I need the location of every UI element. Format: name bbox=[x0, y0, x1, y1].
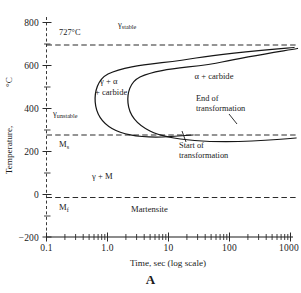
eutectoid-temperature-label: 727°C bbox=[59, 28, 81, 37]
ttt-diagram-figure: 800 600 400 200 0 −200 Temperature, °C bbox=[0, 0, 301, 293]
x-tick-label-1-0: 1.0 bbox=[101, 243, 114, 253]
figure-caption: A bbox=[146, 272, 155, 287]
y-tick-label-200: 200 bbox=[24, 147, 39, 157]
y-tick-label-600: 600 bbox=[24, 61, 39, 71]
y-axis-minor-ticks bbox=[44, 44, 51, 216]
y-axis-title-unit: °C bbox=[4, 77, 14, 87]
x-axis-title: Time, sec (log scale) bbox=[130, 258, 206, 268]
gamma-stable-label: γstable bbox=[117, 19, 136, 30]
alpha-carbide-label: α + carbide bbox=[195, 71, 234, 81]
ttt-diagram-plot: 800 600 400 200 0 −200 Temperature, °C bbox=[0, 0, 301, 293]
end-of-transformation-label-line2: transformation bbox=[196, 104, 246, 113]
mf-label: Mf bbox=[59, 202, 70, 213]
end-of-transformation-leader bbox=[229, 114, 237, 124]
start-of-transformation-label-line2: transformation bbox=[179, 151, 229, 160]
x-tick-label-1000: 1000 bbox=[279, 243, 299, 253]
y-tick-label-400: 400 bbox=[24, 104, 39, 114]
y-tick-label-minus200: −200 bbox=[19, 233, 39, 243]
y-tick-label-0: 0 bbox=[34, 190, 39, 200]
gamma-plus-martensite-label: γ + M bbox=[91, 171, 113, 181]
y-tick-label-800: 800 bbox=[24, 18, 39, 28]
ms-label: Ms bbox=[59, 139, 70, 150]
x-tick-label-10: 10 bbox=[164, 243, 174, 253]
martensite-label: Martensite bbox=[131, 204, 168, 214]
figure-caption-wrap: A bbox=[0, 270, 301, 288]
end-of-transformation-label-line1: End of bbox=[196, 94, 219, 103]
x-tick-label-100: 100 bbox=[222, 243, 237, 253]
start-of-transformation-label-line1: Start of bbox=[179, 141, 204, 150]
y-axis-title: Temperature, bbox=[4, 126, 14, 175]
gamma-alpha-carbide-label-line1: γ + α bbox=[99, 76, 118, 86]
x-tick-label-0-1: 0.1 bbox=[40, 243, 53, 253]
gamma-alpha-carbide-label-line2: + carbide bbox=[95, 87, 127, 97]
gamma-unstable-label: γunstable bbox=[52, 108, 78, 119]
